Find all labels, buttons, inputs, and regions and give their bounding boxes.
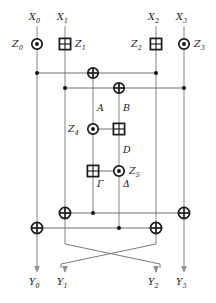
label-segment-gamma: Γ	[97, 179, 104, 189]
center-dot-icon	[35, 42, 39, 46]
swap-path-right	[61, 240, 156, 268]
gate-z4[interactable]	[88, 124, 98, 134]
gate-z0[interactable]	[32, 39, 42, 49]
circuit-canvas	[0, 0, 216, 303]
output-arrowheads	[34, 266, 187, 273]
gate-xor-top[interactable]	[88, 68, 98, 78]
center-dot-icon	[91, 127, 95, 131]
gate-z3[interactable]	[179, 39, 189, 49]
control-dot-top-left	[35, 71, 39, 75]
label-segment-a: A	[97, 103, 104, 113]
label-z4: Z4	[68, 124, 79, 136]
gate-z2[interactable]	[150, 38, 161, 49]
gate-xor-ll[interactable]	[31, 222, 42, 233]
label-segment-b: B	[123, 103, 130, 113]
gate-gamma-square[interactable]	[87, 165, 98, 176]
label-x2: X2	[148, 12, 159, 24]
control-dot-group	[35, 71, 186, 230]
label-y2: Y2	[148, 277, 159, 289]
gate-xor-second[interactable]	[114, 83, 124, 93]
arrow-y1	[62, 266, 68, 273]
label-z1: Z1	[75, 39, 86, 51]
control-dot-top-right	[154, 71, 158, 75]
control-dot-lower-a	[91, 211, 95, 215]
gate-b-square[interactable]	[113, 123, 124, 134]
label-y3: Y3	[176, 277, 187, 289]
swap-crossing	[61, 240, 160, 268]
gate-z1[interactable]	[59, 38, 70, 49]
label-x3: X3	[176, 12, 187, 24]
label-x0: X0	[29, 12, 40, 24]
gate-xor-br[interactable]	[178, 207, 189, 218]
wire-group	[37, 26, 184, 272]
label-segment-d: D	[123, 145, 131, 155]
label-segment-delta: Δ	[123, 179, 130, 189]
arrow-y2	[153, 266, 159, 273]
label-z2: Z2	[131, 39, 142, 51]
control-dot-second-left	[63, 86, 67, 90]
label-x1: X1	[57, 12, 68, 24]
label-y0: Y0	[29, 277, 40, 289]
label-y1: Y1	[57, 277, 68, 289]
center-dot-icon	[117, 169, 121, 173]
gate-xor-rr[interactable]	[150, 222, 161, 233]
label-z3: Z3	[194, 39, 205, 51]
arrow-y3	[181, 266, 187, 273]
gate-z5[interactable]	[114, 166, 124, 176]
center-dot-icon	[182, 42, 186, 46]
rail-group	[37, 73, 184, 228]
label-z5: Z5	[129, 166, 140, 178]
swap-path-left	[65, 240, 160, 268]
control-dot-second-right	[182, 86, 186, 90]
control-dot-lower-b	[117, 226, 121, 230]
circuit-diagram: X0 X1 X2 X3 Z0 Z1 Z2 Z3 Z4 Z5 A B D Γ Δ …	[0, 0, 216, 303]
gate-xor-bl[interactable]	[59, 207, 70, 218]
arrow-y0	[34, 266, 40, 273]
label-z0: Z0	[12, 39, 23, 51]
